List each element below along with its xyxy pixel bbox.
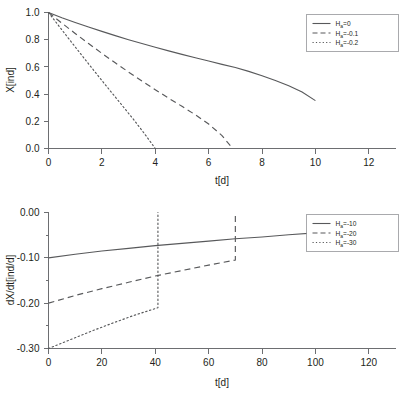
top-y-ticks: 0.00.20.40.60.81.0 xyxy=(26,7,49,154)
x-tick-label: 4 xyxy=(152,157,158,168)
x-tick-label: 80 xyxy=(256,357,268,368)
y-tick-label: -0.30 xyxy=(17,343,40,354)
y-tick-label: 0.8 xyxy=(26,34,40,45)
bottom-curves xyxy=(49,213,316,349)
top-legend: Ha=0Ha=-0.1Ha=-0.2 xyxy=(307,15,399,52)
top-y-axis-title: X[ind] xyxy=(5,67,16,93)
y-tick-label: -0.20 xyxy=(17,298,40,309)
y-tick-label: 0.6 xyxy=(26,62,40,73)
x-tick-label: 60 xyxy=(203,357,215,368)
curve-solid xyxy=(49,13,316,101)
chart-panel-bottom: -0.30-0.20-0.100.00 020406080100120 t[d]… xyxy=(0,200,404,402)
curve-solid xyxy=(49,233,316,258)
y-tick-label: 0.00 xyxy=(20,207,40,218)
x-tick-label: 8 xyxy=(259,157,265,168)
x-tick-label: 100 xyxy=(307,357,324,368)
y-tick-label: 0.0 xyxy=(26,143,40,154)
top-x-ticks: 024681012 xyxy=(46,149,375,168)
x-tick-label: 0 xyxy=(46,157,52,168)
top-curves xyxy=(49,13,316,149)
top-x-axis-title: t[d] xyxy=(215,175,229,186)
x-tick-label: 12 xyxy=(363,157,375,168)
x-tick-label: 10 xyxy=(310,157,322,168)
y-tick-label: 0.2 xyxy=(26,116,40,127)
x-tick-label: 2 xyxy=(99,157,105,168)
bottom-x-ticks: 020406080100120 xyxy=(46,349,378,368)
y-tick-label: 0.4 xyxy=(26,89,40,100)
x-tick-label: 0 xyxy=(46,357,52,368)
bottom-y-axis-title: dX/dt[ind/d] xyxy=(5,254,16,305)
x-tick-label: 6 xyxy=(206,157,212,168)
chart-panel-top: 0.00.20.40.60.81.0 024681012 t[d] X[ind]… xyxy=(0,0,404,200)
y-tick-label: 1.0 xyxy=(26,7,40,18)
top-chart-svg: 0.00.20.40.60.81.0 024681012 t[d] X[ind]… xyxy=(0,0,404,200)
bottom-chart-svg: -0.30-0.20-0.100.00 020406080100120 t[d]… xyxy=(0,200,404,402)
figure-container: 0.00.20.40.60.81.0 024681012 t[d] X[ind]… xyxy=(0,0,404,402)
y-tick-label: -0.10 xyxy=(17,252,40,263)
curve-dashed xyxy=(49,213,236,304)
bottom-y-ticks: -0.30-0.20-0.100.00 xyxy=(17,207,49,354)
bottom-legend: Ha=-10Ha=-20Ha=-30 xyxy=(307,215,399,252)
bottom-x-axis-title: t[d] xyxy=(215,377,229,388)
curve-dotted xyxy=(49,13,156,149)
x-tick-label: 120 xyxy=(360,357,377,368)
x-tick-label: 40 xyxy=(150,357,162,368)
curve-dotted xyxy=(49,213,158,349)
x-tick-label: 20 xyxy=(96,357,108,368)
